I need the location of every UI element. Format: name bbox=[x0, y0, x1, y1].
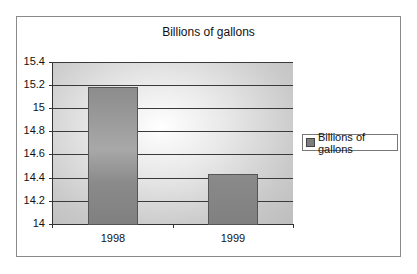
y-tick bbox=[49, 178, 53, 179]
y-tick-label: 15.2 bbox=[5, 78, 45, 90]
legend-label: Billions of gallons bbox=[318, 131, 397, 155]
y-tick bbox=[49, 154, 53, 155]
y-tick-label: 14 bbox=[5, 217, 45, 229]
y-tick bbox=[49, 62, 53, 63]
y-tick-label: 14.2 bbox=[5, 194, 45, 206]
y-tick-label: 15.4 bbox=[5, 55, 45, 67]
y-tick-label: 14.6 bbox=[5, 147, 45, 159]
bar-1998 bbox=[88, 87, 138, 225]
y-tick bbox=[49, 108, 53, 109]
y-tick-label: 14.4 bbox=[5, 171, 45, 183]
y-tick bbox=[49, 201, 53, 202]
y-tick-label: 14.8 bbox=[5, 124, 45, 136]
x-tick-label: 1998 bbox=[83, 232, 143, 244]
chart-title: Billions of gallons bbox=[0, 25, 417, 39]
gridline bbox=[53, 62, 293, 63]
y-tick bbox=[49, 85, 53, 86]
x-tick bbox=[173, 224, 174, 228]
y-tick bbox=[49, 131, 53, 132]
legend-swatch-icon bbox=[306, 138, 315, 147]
bar-1999 bbox=[208, 174, 258, 225]
y-tick-label: 15 bbox=[5, 101, 45, 113]
x-tick-label: 1999 bbox=[203, 232, 263, 244]
gridline bbox=[53, 85, 293, 86]
x-tick bbox=[52, 224, 53, 228]
x-tick bbox=[293, 224, 294, 228]
legend: Billions of gallons bbox=[302, 134, 398, 151]
